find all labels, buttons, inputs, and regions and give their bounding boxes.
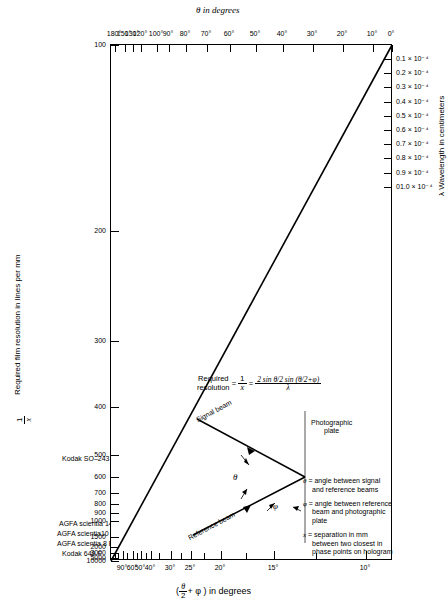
variable-definition: φ = angle between reference beam and pho…: [303, 500, 393, 526]
right-tick-label: 0.7 × 10⁻⁴: [396, 140, 429, 147]
signal-beam-line: [197, 419, 305, 477]
left-axis-symbol: 1 x: [16, 416, 33, 424]
right-tick-label: 0.2 × 10⁻⁴: [396, 69, 429, 76]
right-tick-label: 01.0 × 10⁻⁴: [396, 182, 432, 189]
variable-equals: =: [306, 531, 314, 538]
top-tick-label: 60°: [224, 30, 235, 37]
variable-description: angle between reference beam and photogr…: [312, 500, 392, 525]
left-tick-label: 300: [94, 337, 106, 344]
top-tick-label: 10°: [367, 30, 378, 37]
right-tick-label: 0.4 × 10⁻⁴: [396, 97, 429, 104]
photographic-plate-label: Photographic plate: [311, 419, 352, 436]
top-tick-label: 0°: [388, 30, 395, 37]
bottom-tick-label: 10°: [360, 564, 371, 571]
top-tick-label: 40°: [277, 30, 288, 37]
bottom-tick-label: 90°: [117, 564, 128, 571]
variable-definition: θ = angle between signal and reference b…: [303, 477, 393, 495]
formula-lhs-label: Required resolution: [197, 375, 230, 392]
right-tick-label: 0.8 × 10⁻⁴: [396, 154, 429, 161]
left-axis-title: Required film resolution in lines per mm: [14, 255, 22, 396]
left-tick-label: 600: [94, 473, 106, 480]
top-tick-label: 30°: [307, 30, 318, 37]
left-tick-label: 400: [94, 403, 106, 410]
top-axis-title: θ in degrees: [196, 6, 240, 15]
variable-description: angle between signal and reference beams: [312, 477, 380, 493]
formula-rhs: 2 sin θ/2 sin (θ/2+φ) λ: [255, 376, 321, 392]
left-tick-label: 100: [94, 41, 106, 48]
variable-description: separation in mm between two closest in …: [312, 531, 393, 556]
left-tick-label: 900: [94, 509, 106, 516]
bottom-title-plus-phi: + φ ): [187, 586, 206, 596]
theta-angle-label: θ: [233, 473, 237, 482]
bottom-tick-label: 40°: [145, 564, 156, 571]
variable-definitions-legend: θ = angle between signal and reference b…: [303, 477, 393, 562]
plot-area: Required resolution = 1 x = 2 sin θ/2 si…: [110, 44, 392, 560]
left-tick-label: 10000: [87, 556, 106, 563]
formula-equals-1: =: [232, 379, 236, 388]
top-tick-label: 50°: [250, 30, 261, 37]
right-tick-label: 0.1 × 10⁻⁴: [396, 55, 429, 62]
right-axis-title: λ Wavelength in centimeters: [438, 96, 446, 196]
left-tick-label: 200: [94, 227, 106, 234]
bottom-tick-label: 15°: [268, 564, 279, 571]
top-tick-label: 120°: [133, 30, 147, 37]
bottom-tick-label: 25°: [185, 564, 196, 571]
variable-definition: x = separation in mm between two closest…: [303, 531, 393, 557]
formula-block: Required resolution = 1 x = 2 sin θ/2 si…: [197, 375, 321, 392]
top-tick-label: 80°: [180, 30, 191, 37]
formula-one-over-x: 1 x: [238, 375, 246, 392]
top-tick-label: 100°: [149, 30, 163, 37]
variable-equals: =: [307, 500, 315, 507]
one-over-x-fraction: 1 x: [16, 416, 33, 424]
film-label-kodak-so243: Kodak SO–243: [62, 455, 109, 462]
formula-equals-2: =: [249, 379, 253, 388]
left-tick-label: 700: [94, 489, 106, 496]
bottom-title-tail: in degrees: [207, 586, 252, 596]
top-tick-label: 20°: [337, 30, 348, 37]
left-tick-label: 800: [94, 500, 106, 507]
right-tick-label: 0.3 × 10⁻⁴: [396, 83, 429, 90]
bottom-axis-title: ( θ 2 + φ ) in degrees: [176, 583, 251, 600]
right-tick-label: 0.5 × 10⁻⁴: [396, 111, 429, 118]
right-tick-label: 0.6 × 10⁻⁴: [396, 126, 429, 133]
bottom-tick-label: 20°: [215, 564, 226, 571]
phi-angle-label: φ: [273, 502, 278, 511]
top-tick-label: 90°: [163, 30, 174, 37]
film-label-kodak-649f: Kodak 649 F: [62, 550, 102, 557]
bottom-tick-label: 30°: [165, 564, 176, 571]
right-tick-label: 0.9 × 10⁻⁴: [396, 168, 429, 175]
top-tick-label: 70°: [201, 30, 212, 37]
bottom-tick-label: 50°: [135, 564, 146, 571]
